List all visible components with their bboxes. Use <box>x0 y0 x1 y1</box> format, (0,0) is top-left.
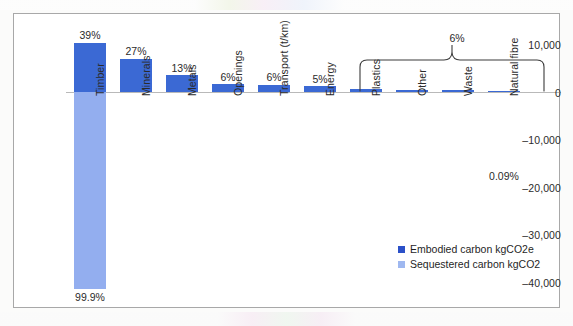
x-category-label-openings: Openings <box>232 50 244 96</box>
x-category-label-waste: Waste <box>462 66 474 96</box>
scan-artifact-bottom <box>0 312 573 326</box>
y-tick-label-m30000: –30,000 <box>509 229 561 241</box>
brace-annotation-label: 6% <box>427 32 487 44</box>
y-tick-label-m20000: –20,000 <box>509 182 561 194</box>
chart-frame: 10,000 0 –10,000 –20,000 –30,000 –40,000 <box>13 13 560 308</box>
data-label-timber: 39% <box>74 29 106 41</box>
legend-label-embodied: Embodied carbon kgCO2e <box>410 243 534 255</box>
y-tick-label-m10000: –10,000 <box>509 134 561 146</box>
x-category-label-plastics: Plastics <box>370 59 382 96</box>
legend-item-sequestered[interactable]: Sequestered carbon kgCO2 <box>398 258 540 270</box>
legend-swatch-embodied-icon <box>398 246 405 253</box>
legend-label-sequestered: Sequestered carbon kgCO2 <box>410 258 540 270</box>
plot-area: 10,000 0 –10,000 –20,000 –30,000 –40,000 <box>14 14 561 309</box>
x-category-label-metals: Metals <box>186 64 198 96</box>
x-category-label-transport: Transport (t/km) <box>278 20 290 96</box>
x-category-label-timber: Timber <box>94 63 106 96</box>
legend-item-embodied[interactable]: Embodied carbon kgCO2e <box>398 243 540 255</box>
page-background: 10,000 0 –10,000 –20,000 –30,000 –40,000 <box>0 0 573 326</box>
x-category-label-natural-fibre: Natural fibre <box>508 38 520 97</box>
x-category-label-minerals: Minerals <box>140 56 152 96</box>
bar-sequestered-timber[interactable] <box>74 92 106 289</box>
y-tick-mark-0 <box>66 92 71 93</box>
x-category-label-other: Other <box>416 69 428 96</box>
data-label-timber-sequestered: 99.9% <box>70 291 110 303</box>
data-label-natural-fibre: 0.09% <box>478 170 530 182</box>
legend-swatch-sequestered-icon <box>398 261 405 268</box>
scan-artifact-top <box>0 0 573 10</box>
y-tick-label-m40000: –40,000 <box>509 277 561 289</box>
x-category-label-energy: Energy <box>324 62 336 96</box>
legend: Embodied carbon kgCO2e Sequestered carbo… <box>398 243 540 273</box>
